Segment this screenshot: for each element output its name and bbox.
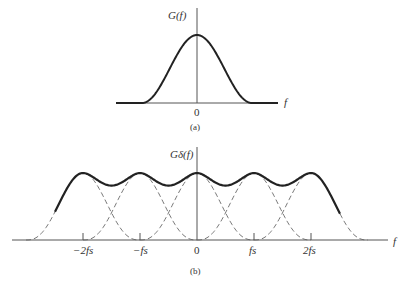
diagram-canvas — [0, 0, 401, 283]
replica-dashed-curve — [26, 173, 140, 240]
panel-b — [12, 147, 388, 240]
ylabel-b: Gδ(f) — [170, 149, 193, 160]
tick-label-fs: fs — [249, 245, 256, 256]
xlabel-a: f — [284, 97, 287, 108]
tick-label-zero: 0 — [194, 245, 200, 256]
replica-dashed-curve — [197, 173, 311, 240]
caption-a: (a) — [190, 123, 200, 132]
ylabel-a: G(f) — [168, 10, 186, 21]
xlabel-b: f — [393, 236, 396, 247]
tick-label-neg2fs: −2fs — [73, 245, 93, 256]
tick-zero-a: 0 — [194, 107, 200, 118]
caption-b: (b) — [190, 267, 201, 276]
tick-label-2fs: 2fs — [303, 245, 316, 256]
replica-dashed-curve — [83, 173, 197, 240]
replica-dashed-curve — [254, 173, 368, 240]
panel-a — [116, 8, 278, 103]
tick-label-negfs: −fs — [133, 245, 148, 256]
